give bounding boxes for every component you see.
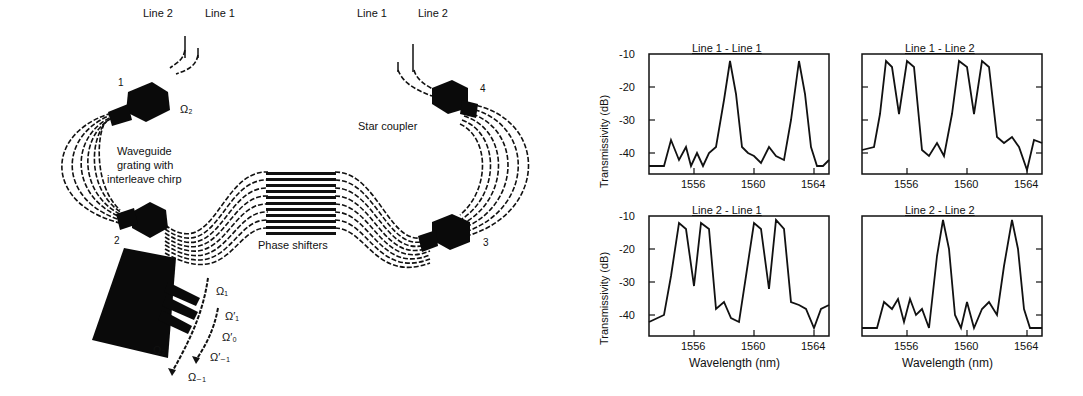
label-grating-1: Waveguide	[117, 146, 172, 157]
y-axis-label-bottom: Transmissivity (dB)	[598, 252, 610, 345]
label-port-4: 4	[480, 84, 486, 94]
panel-title: Line 2 - Line 2	[905, 204, 975, 216]
star-coupler-1	[126, 82, 170, 122]
label-port-1: 1	[118, 78, 124, 88]
spectrum-plot	[862, 54, 1042, 174]
label-omega-input: Ω₂	[180, 104, 193, 115]
label-output-line1: Line 1	[357, 8, 387, 19]
x-axis-label: Wavelength (nm)	[902, 356, 993, 370]
label-input-line1: Line 1	[205, 8, 235, 19]
label-port-2: 2	[114, 236, 120, 246]
label-input-line2: Line 2	[143, 8, 173, 19]
label-out-omega-m1: Ω₋₁	[188, 372, 206, 383]
panel-line1-line2: Line 1 - Line 2 1556 1560 1564	[862, 54, 1042, 184]
label-output-line2: Line 2	[418, 8, 448, 19]
transmission-spectra: Transmissivity (dB) Transmissivity (dB) …	[590, 40, 1083, 396]
panel-line2-line2: Line 2 - Line 2 1556 1560 1564 Wavelengt…	[862, 216, 1042, 346]
label-out-omega-0p: Ω′₀	[222, 332, 237, 343]
label-grating-2: grating with	[117, 160, 173, 171]
label-star-coupler: Star coupler	[358, 121, 417, 132]
panel-title: Line 2 - Line 1	[692, 204, 762, 216]
waveguide-router-diagram: Line 2 Line 1 Line 1 Line 2 Ω₂ Waveguide…	[0, 0, 560, 396]
spectrum-plot	[649, 216, 829, 336]
panel-title: Line 1 - Line 1	[692, 42, 762, 54]
label-out-omega-1p: Ω′₁	[225, 311, 239, 322]
x-axis-label: Wavelength (nm)	[689, 356, 780, 370]
label-phase-shifters: Phase shifters	[258, 240, 328, 251]
label-out-omega-1: Ω₁	[216, 286, 228, 297]
spectrum-plot	[649, 54, 829, 174]
label-port-3: 3	[483, 238, 489, 248]
y-axis-label-top: Transmissivity (dB)	[598, 95, 610, 188]
panel-line1-line1: Line 1 - Line 1 -10 -20 -30 -40 1556 156…	[649, 54, 829, 184]
panel-line2-line1: Line 2 - Line 1 -10 -20 -30 -40 1556 156…	[649, 216, 829, 346]
spectrum-plot	[862, 216, 1042, 336]
label-out-omega-m1p: Ω′₋₁	[210, 352, 230, 363]
label-out-omega-2: Ω₂	[153, 345, 166, 356]
panel-title: Line 1 - Line 2	[905, 42, 975, 54]
diagram-drawing	[0, 0, 560, 396]
label-grating-3: interleave chirp	[107, 174, 182, 185]
